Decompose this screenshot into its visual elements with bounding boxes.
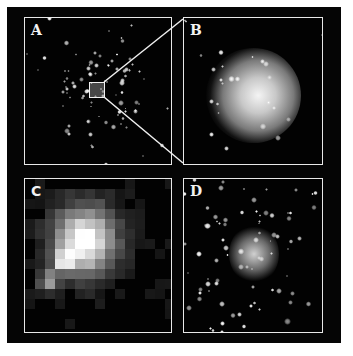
star bbox=[120, 123, 122, 125]
inset-box bbox=[89, 82, 105, 98]
star bbox=[90, 106, 92, 108]
star bbox=[321, 33, 323, 37]
pixel bbox=[75, 269, 85, 279]
star bbox=[106, 81, 108, 83]
pixel bbox=[115, 249, 125, 259]
pixel bbox=[105, 189, 115, 199]
pixel bbox=[45, 289, 55, 299]
star bbox=[196, 251, 202, 257]
star bbox=[183, 242, 187, 246]
star bbox=[288, 300, 293, 305]
pixel bbox=[115, 229, 125, 239]
star bbox=[88, 132, 93, 137]
pixel bbox=[75, 199, 85, 209]
star bbox=[26, 53, 28, 55]
pixel bbox=[135, 239, 145, 249]
pixel bbox=[115, 239, 125, 249]
pixel bbox=[125, 259, 135, 269]
star bbox=[287, 248, 289, 250]
pixel bbox=[85, 259, 95, 269]
pixel bbox=[55, 249, 65, 259]
star bbox=[133, 109, 138, 114]
star bbox=[269, 213, 274, 218]
star bbox=[238, 248, 244, 254]
pixel bbox=[45, 249, 55, 259]
star bbox=[286, 216, 292, 222]
pixel bbox=[115, 199, 125, 209]
pixel bbox=[55, 259, 65, 269]
star bbox=[251, 268, 253, 270]
star bbox=[47, 17, 52, 21]
star bbox=[218, 50, 223, 55]
pixel bbox=[125, 209, 135, 219]
pixel bbox=[65, 239, 75, 249]
star bbox=[271, 288, 275, 292]
pixel bbox=[135, 229, 145, 239]
pixel bbox=[45, 209, 55, 219]
star bbox=[228, 76, 234, 82]
star bbox=[67, 70, 70, 73]
pixel bbox=[155, 249, 165, 259]
pixel bbox=[85, 279, 95, 289]
pixel bbox=[95, 239, 105, 249]
star bbox=[94, 72, 97, 75]
pixel bbox=[105, 229, 115, 239]
pixel bbox=[65, 199, 75, 209]
star bbox=[258, 308, 261, 311]
star bbox=[297, 236, 302, 241]
pixel bbox=[65, 249, 75, 259]
star bbox=[289, 211, 293, 215]
star bbox=[211, 67, 216, 72]
pixel bbox=[105, 279, 115, 289]
pixel bbox=[165, 299, 172, 309]
pixel bbox=[75, 189, 85, 199]
star bbox=[253, 237, 259, 243]
pixel bbox=[85, 209, 95, 219]
pixel bbox=[45, 239, 55, 249]
star bbox=[124, 67, 129, 72]
pixel bbox=[75, 249, 85, 259]
pixel bbox=[95, 269, 105, 279]
star bbox=[221, 65, 224, 68]
star bbox=[263, 210, 269, 216]
star bbox=[108, 30, 110, 32]
pixel bbox=[75, 219, 85, 229]
star bbox=[217, 112, 219, 114]
star bbox=[98, 116, 100, 118]
pixel bbox=[85, 189, 95, 199]
pixel bbox=[115, 219, 125, 229]
pixel bbox=[115, 269, 125, 279]
star bbox=[204, 223, 210, 229]
pixel bbox=[105, 259, 115, 269]
pixel bbox=[75, 279, 85, 289]
star bbox=[107, 64, 110, 67]
pixel bbox=[95, 299, 105, 309]
pixel bbox=[25, 229, 35, 239]
star bbox=[72, 84, 77, 89]
star bbox=[86, 66, 91, 71]
star bbox=[207, 278, 209, 280]
pixel bbox=[95, 289, 105, 299]
pixel bbox=[65, 259, 75, 269]
star bbox=[223, 245, 229, 251]
pixel bbox=[25, 259, 35, 269]
pixel bbox=[55, 209, 65, 219]
star bbox=[143, 78, 145, 80]
star bbox=[75, 53, 77, 55]
star bbox=[251, 197, 257, 203]
pixel bbox=[85, 289, 95, 299]
pixel bbox=[95, 249, 105, 259]
pixel bbox=[145, 239, 155, 249]
pixel bbox=[55, 269, 65, 279]
star bbox=[221, 180, 224, 183]
star bbox=[311, 205, 316, 210]
pixel bbox=[105, 199, 115, 209]
pixel bbox=[35, 249, 45, 259]
star bbox=[289, 239, 293, 243]
pixel bbox=[25, 299, 35, 309]
pixel bbox=[125, 249, 135, 259]
star bbox=[287, 212, 289, 214]
star bbox=[270, 240, 272, 242]
pixel bbox=[75, 289, 85, 299]
star bbox=[187, 272, 189, 274]
